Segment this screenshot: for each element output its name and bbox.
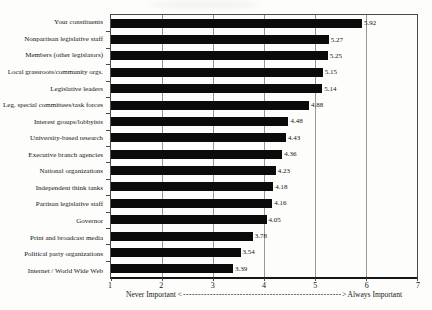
category-tick xyxy=(106,130,110,131)
category-label: University-based research xyxy=(0,130,106,147)
category-tick xyxy=(106,97,110,98)
bar xyxy=(111,150,282,159)
scan-smudge xyxy=(150,0,260,9)
bar-value-label: 4.23 xyxy=(278,167,290,175)
bar xyxy=(111,84,322,93)
bar xyxy=(111,232,253,241)
x-axis-legend-always: > Always Important xyxy=(342,290,402,299)
bar-row: 5.14 xyxy=(111,81,417,97)
category-label: Partisan legislative staff xyxy=(0,196,106,213)
bar xyxy=(111,182,273,191)
value-tick-label: 7 xyxy=(416,281,420,290)
category-tick xyxy=(106,31,110,32)
category-tick xyxy=(106,228,110,229)
bar-value-label: 4.48 xyxy=(290,117,302,125)
category-label: Executive branch agencies xyxy=(0,147,106,164)
bar-value-label: 5.92 xyxy=(364,19,376,27)
category-tick xyxy=(106,179,110,180)
category-label: Interest groups/lobbyists xyxy=(0,113,106,130)
category-tick xyxy=(106,195,110,196)
category-tick xyxy=(106,48,110,49)
bar-value-label: 4.18 xyxy=(275,183,287,191)
value-tick-label: 3 xyxy=(211,281,215,290)
bar-row: 4.88 xyxy=(111,97,417,113)
bar-row: 3.54 xyxy=(111,244,417,260)
bar-value-label: 5.15 xyxy=(325,68,337,76)
bar xyxy=(111,51,328,60)
bar-row: 4.16 xyxy=(111,195,417,211)
bar xyxy=(111,264,233,273)
bar-value-label: 5.25 xyxy=(330,52,342,60)
category-label: National organizations xyxy=(0,163,106,180)
bar-value-label: 5.14 xyxy=(324,85,336,93)
bars-container: 5.925.275.255.155.144.884.484.434.364.23… xyxy=(111,15,417,277)
category-label: Legislative leaders xyxy=(0,80,106,97)
category-tick xyxy=(106,113,110,114)
bar-value-label: 3.54 xyxy=(243,248,255,256)
bar-row: 4.43 xyxy=(111,130,417,146)
bar-value-label: 5.27 xyxy=(331,36,343,44)
bar-row: 4.36 xyxy=(111,146,417,162)
x-axis-legend: Never Important < ----------------------… xyxy=(104,290,424,299)
bar-row: 4.48 xyxy=(111,113,417,129)
category-label: Your constituents xyxy=(0,14,106,31)
bar xyxy=(111,117,288,126)
bar-value-label: 4.36 xyxy=(284,150,296,158)
category-tick xyxy=(106,244,110,245)
category-tick xyxy=(106,212,110,213)
category-label: Leg. special committees/task forces xyxy=(0,97,106,114)
bar-row: 4.05 xyxy=(111,212,417,228)
category-label: Political party organizations xyxy=(0,246,106,263)
category-axis-labels: Your constituentsNonpartisan legislative… xyxy=(0,14,106,279)
bar-row: 5.27 xyxy=(111,31,417,47)
bar xyxy=(111,133,286,142)
bar-row: 5.92 xyxy=(111,15,417,31)
category-label: Local grassroots/community orgs. xyxy=(0,64,106,81)
bar-row: 4.23 xyxy=(111,162,417,178)
category-label: Print and broadcast media xyxy=(0,229,106,246)
bar xyxy=(111,248,241,257)
bar xyxy=(111,166,276,175)
bar-value-label: 4.16 xyxy=(274,199,286,207)
value-tick-label: 2 xyxy=(159,281,163,290)
bar-row: 5.25 xyxy=(111,48,417,64)
category-tick xyxy=(106,261,110,262)
horizontal-bar-chart: Your constituentsNonpartisan legislative… xyxy=(0,0,432,310)
value-tick-label: 1 xyxy=(108,281,112,290)
bar xyxy=(111,68,323,77)
category-label: Governor xyxy=(0,213,106,230)
category-tick xyxy=(106,146,110,147)
bar-row: 5.15 xyxy=(111,64,417,80)
bar-value-label: 4.43 xyxy=(288,134,300,142)
value-tick-label: 6 xyxy=(365,281,369,290)
category-tick xyxy=(106,81,110,82)
category-tick xyxy=(106,162,110,163)
value-tick-label: 5 xyxy=(313,281,317,290)
bar xyxy=(111,101,309,110)
bar xyxy=(111,199,272,208)
value-tick-label: 4 xyxy=(262,281,266,290)
category-label: Nonpartisan legislative staff xyxy=(0,31,106,48)
bar-value-label: 4.88 xyxy=(311,101,323,109)
bar xyxy=(111,215,267,224)
bar xyxy=(111,35,329,44)
category-label: Members (other legislators) xyxy=(0,47,106,64)
plot-area: 5.925.275.255.155.144.884.484.434.364.23… xyxy=(110,14,418,279)
category-tick xyxy=(106,64,110,65)
bar-value-label: 4.05 xyxy=(269,216,281,224)
bar-value-label: 3.78 xyxy=(255,232,267,240)
bar-row: 3.78 xyxy=(111,228,417,244)
x-axis-legend-dashes: ----------------------------------------… xyxy=(183,290,341,299)
category-label: Internet / World Wide Web xyxy=(0,262,106,279)
bar-row: 3.39 xyxy=(111,261,417,277)
bar-row: 4.18 xyxy=(111,179,417,195)
bar-value-label: 3.39 xyxy=(235,265,247,273)
bar xyxy=(111,19,362,28)
category-label: Independent think tanks xyxy=(0,180,106,197)
x-axis-legend-never: Never Important < xyxy=(126,290,182,299)
value-axis-tick-labels: 1234567 xyxy=(110,281,418,290)
